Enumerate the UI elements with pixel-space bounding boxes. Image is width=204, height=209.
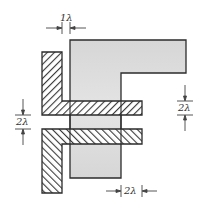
dimension-right-label: 2λ bbox=[178, 103, 191, 113]
dimension-left-label: 2λ bbox=[16, 117, 29, 127]
dimension-top bbox=[46, 22, 86, 34]
dimension-top-label: 1λ bbox=[60, 13, 73, 23]
layout-diagram bbox=[0, 0, 204, 209]
dimension-bottom-label: 2λ bbox=[124, 186, 137, 196]
